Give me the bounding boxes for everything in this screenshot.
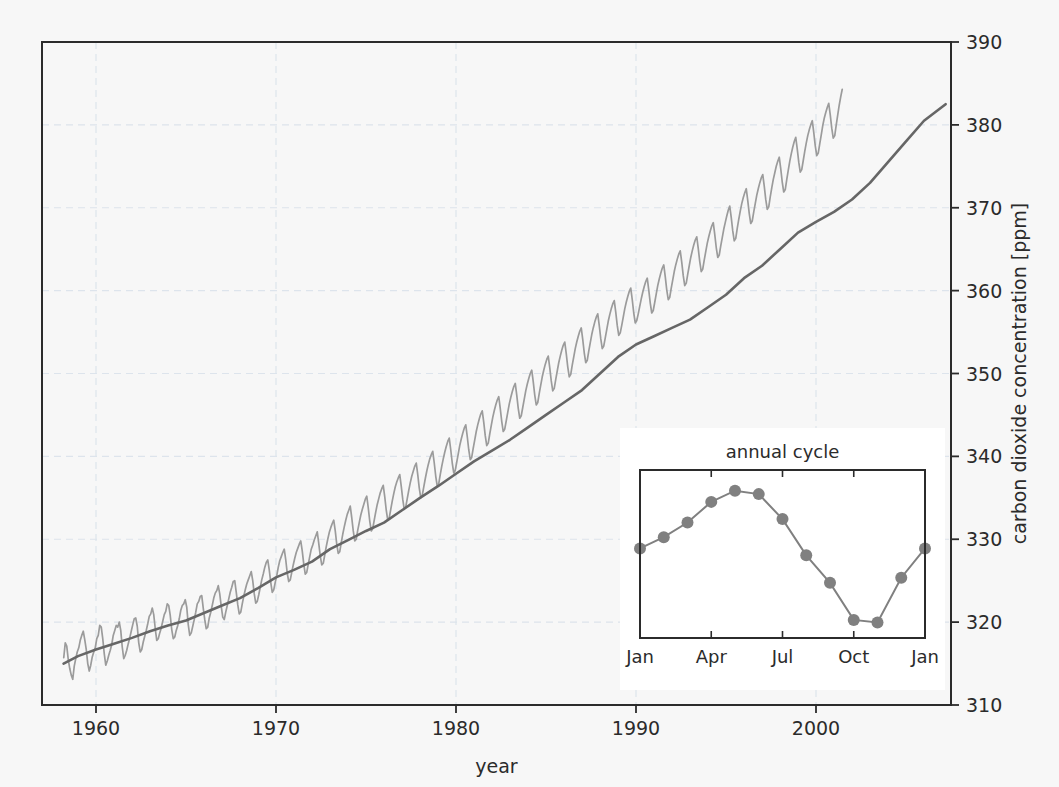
y-tick-label: 330 [966, 528, 1002, 550]
inset-x-tick-label: Oct [838, 646, 869, 667]
x-tick-label: 1960 [72, 717, 120, 739]
inset-data-point [705, 496, 717, 508]
inset-data-point [682, 517, 694, 529]
x-tick-label: 1970 [252, 717, 300, 739]
inset-data-point [658, 531, 670, 543]
y-tick-label: 340 [966, 445, 1002, 467]
x-axis-label: year [475, 755, 518, 777]
y-tick-label: 380 [966, 114, 1002, 136]
inset-x-tick-label: Jan [625, 646, 654, 667]
x-tick-label: 1980 [432, 717, 480, 739]
inset-data-point [848, 614, 860, 626]
x-tick-label: 1990 [612, 717, 660, 739]
inset-x-tick-label: Apr [696, 646, 728, 667]
inset-annual-cycle: annual cycle JanAprJulOctJan [620, 428, 945, 690]
inset-x-tick-label: Jan [910, 646, 939, 667]
y-tick-label: 370 [966, 197, 1002, 219]
chart-canvas: 19601970198019902000 3103203303403503603… [0, 0, 1059, 787]
inset-data-point [824, 577, 836, 589]
inset-data-point [895, 572, 907, 584]
inset-data-point [872, 616, 884, 628]
y-tick-label: 320 [966, 611, 1002, 633]
inset-data-point [777, 513, 789, 525]
y-axis-label: carbon dioxide concentration [ppm] [1008, 203, 1030, 544]
inset-x-tick-label: Jul [771, 646, 794, 667]
inset-title: annual cycle [726, 441, 840, 462]
y-tick-label: 390 [966, 31, 1002, 53]
main-y-tick-labels: 310320330340350360370380390 [966, 31, 1002, 716]
inset-data-point [800, 549, 812, 561]
y-tick-label: 360 [966, 280, 1002, 302]
y-tick-label: 310 [966, 694, 1002, 716]
inset-data-point [729, 485, 741, 497]
co2-figure: 19601970198019902000 3103203303403503603… [0, 0, 1059, 787]
inset-data-point [753, 488, 765, 500]
x-tick-label: 2000 [792, 717, 840, 739]
y-tick-label: 350 [966, 363, 1002, 385]
